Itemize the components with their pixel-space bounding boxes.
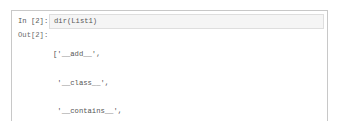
notebook-cell[interactable]: In [2]: dir(List1) Out[2]: ['__add__', '… xyxy=(11,10,328,121)
output-prompt: Out[2]: xyxy=(18,31,48,41)
input-prompt: In [2]: xyxy=(18,14,48,29)
output-line: ['__add__', xyxy=(53,50,122,60)
output-line: '__class__', xyxy=(53,79,122,89)
code-text: dir(List1) xyxy=(54,15,97,28)
input-row: In [2]: dir(List1) xyxy=(12,14,327,29)
code-input-area[interactable]: dir(List1) xyxy=(49,14,324,29)
output-area: ['__add__', '__class__', '__contains__',… xyxy=(53,31,122,130)
output-line: '__contains__', xyxy=(53,107,122,117)
